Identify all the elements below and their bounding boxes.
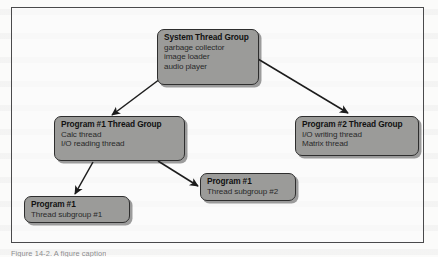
node-line: I/O reading thread — [61, 139, 179, 149]
node-program1-thread-subgroup-2[interactable]: Program #1 Thread subgroup #2 — [200, 173, 296, 201]
node-title: System Thread Group — [164, 33, 253, 43]
node-system-thread-group[interactable]: System Thread Group garbage collector im… — [157, 29, 259, 85]
figure-caption: Figure 14-2. A figure caption — [11, 249, 106, 257]
node-line: Thread subgroup #1 — [31, 210, 124, 220]
node-title: Program #2 Thread Group — [302, 120, 413, 130]
node-program2-thread-group[interactable]: Program #2 Thread Group I/O writing thre… — [295, 116, 419, 156]
node-title: Program #1 Thread Group — [61, 120, 179, 130]
node-line: garbage collector — [164, 43, 253, 53]
node-title: Program #1 — [207, 177, 290, 187]
node-program1-thread-subgroup-1[interactable]: Program #1 Thread subgroup #1 — [24, 196, 130, 223]
node-line: Calc thread — [61, 130, 179, 140]
node-line: image loader — [164, 52, 253, 62]
node-program1-thread-group[interactable]: Program #1 Thread Group Calc thread I/O … — [54, 116, 185, 161]
node-line: Matrix thread — [302, 139, 413, 149]
node-line: audio player — [164, 62, 253, 72]
node-title: Program #1 — [31, 200, 124, 210]
node-line: Thread subgroup #2 — [207, 187, 290, 197]
node-line: I/O writing thread — [302, 130, 413, 140]
